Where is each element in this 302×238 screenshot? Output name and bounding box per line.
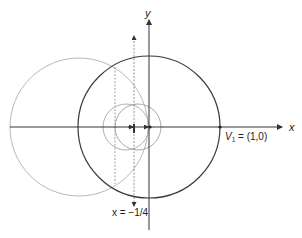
x-axis-label: x bbox=[288, 121, 295, 133]
directrix-tick-mark bbox=[133, 124, 135, 133]
vertex-label-value: = (1,0) bbox=[235, 131, 267, 142]
directrix-label: x = −1/4 bbox=[112, 207, 149, 218]
diagram-canvas: x y V1 = (1,0) x = −1/4 bbox=[0, 0, 302, 238]
y-axis-label: y bbox=[144, 7, 152, 19]
vertex-V1-point bbox=[218, 125, 221, 128]
origin-point bbox=[148, 125, 151, 128]
vertex-label: V1 = (1,0) bbox=[225, 131, 267, 143]
